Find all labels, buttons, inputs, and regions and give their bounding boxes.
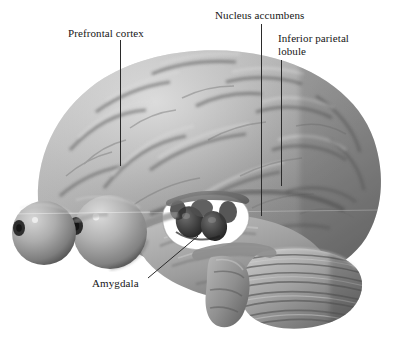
label-prefrontal-cortex: Prefrontal cortex bbox=[68, 27, 144, 40]
label-inferior-parietal-lobule: Inferior parietal lobule bbox=[278, 32, 349, 57]
label-nucleus-accumbens: Nucleus accumbens bbox=[215, 9, 304, 22]
right-eyeball bbox=[12, 201, 76, 265]
label-amygdala: Amygdala bbox=[92, 277, 139, 290]
brain-anatomy-figure: Prefrontal cortex Nucleus accumbens Infe… bbox=[0, 0, 404, 346]
